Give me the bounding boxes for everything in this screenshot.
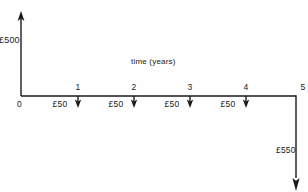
tick-label-year-5: 5 (301, 83, 306, 92)
cashflow-amount-year-4: £50 (221, 100, 236, 109)
cashflow-amount-year-1: £50 (53, 100, 68, 109)
cashflow-amount-year-2: £50 (109, 100, 124, 109)
tick-label-year-1: 1 (76, 83, 81, 92)
principal-amount-label: £500 (0, 36, 20, 45)
tick-label-year-3: 3 (188, 83, 193, 92)
timeline-graphics (0, 0, 308, 192)
cashflow-timeline-diagram: £500 time (years) 0 1 2 3 4 5 £50 £50 £5… (0, 0, 308, 192)
origin-label: 0 (17, 100, 22, 109)
final-cashflow-amount-label: £550 (276, 146, 296, 155)
tick-label-year-2: 2 (132, 83, 137, 92)
final-outflow-arrowhead-down-icon-year-5 (292, 178, 299, 191)
tick-label-year-4: 4 (244, 83, 249, 92)
cashflow-amount-year-3: £50 (165, 100, 180, 109)
time-axis-title: time (years) (131, 58, 176, 66)
